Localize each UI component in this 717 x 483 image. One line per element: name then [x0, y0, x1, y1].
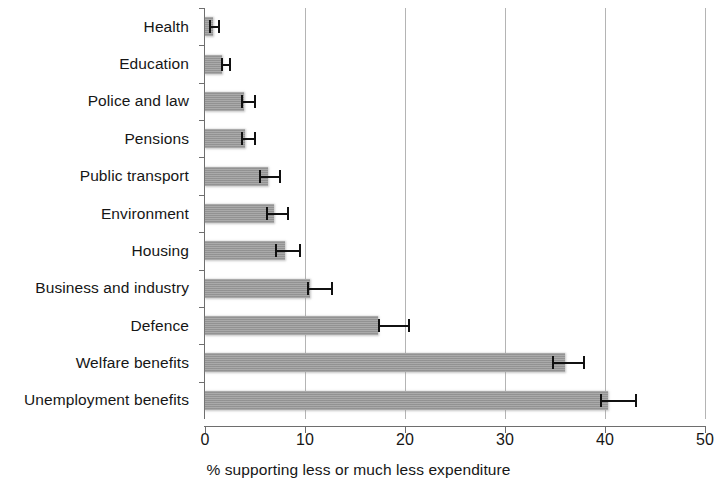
gridline-40	[605, 8, 606, 419]
bar	[205, 279, 310, 298]
category-label: Environment	[101, 206, 189, 222]
category-label: Health	[144, 19, 189, 35]
error-bar-whisker	[600, 400, 637, 402]
x-tick-label-10: 10	[283, 431, 327, 449]
error-bar-cap-high	[218, 20, 220, 33]
category-label: Police and law	[88, 93, 189, 109]
x-axis-title: % supporting less or much less expenditu…	[0, 461, 717, 479]
error-bar-cap-high	[279, 170, 281, 183]
bar	[205, 55, 222, 74]
error-bar	[552, 356, 585, 369]
y-tick-10	[199, 382, 205, 383]
error-bar	[600, 394, 637, 407]
error-bar	[275, 244, 301, 257]
x-tick-label-30: 30	[483, 431, 527, 449]
category-label: Welfare benefits	[76, 355, 189, 371]
error-bar-whisker	[552, 362, 585, 364]
error-bar	[241, 132, 256, 145]
category-label: Unemployment benefits	[24, 392, 189, 408]
error-bar-whisker	[378, 325, 410, 327]
error-bar-cap-high	[287, 207, 289, 220]
y-tick-1	[199, 45, 205, 46]
gridline-50	[705, 8, 706, 419]
error-bar-whisker	[307, 288, 333, 290]
error-bar	[241, 95, 256, 108]
y-tick-8	[199, 307, 205, 308]
bar	[205, 353, 565, 372]
y-tick-9	[199, 344, 205, 345]
category-label: Housing	[131, 243, 189, 259]
y-tick-3	[199, 120, 205, 121]
error-bar	[378, 319, 410, 332]
x-axis-line	[204, 426, 706, 427]
y-tick-4	[199, 157, 205, 158]
category-label: Defence	[131, 318, 189, 334]
bar	[205, 241, 285, 260]
error-bar-whisker	[266, 213, 289, 215]
error-bar-whisker	[275, 250, 301, 252]
category-label: Education	[119, 56, 189, 72]
error-bar-cap-high	[583, 356, 585, 369]
x-tick-label-40: 40	[583, 431, 627, 449]
error-bar-cap-high	[254, 132, 256, 145]
y-tick-0	[199, 8, 205, 9]
y-tick-6	[199, 232, 205, 233]
error-bar-cap-high	[408, 319, 410, 332]
x-tick-label-20: 20	[383, 431, 427, 449]
error-bar-cap-high	[635, 394, 637, 407]
bar	[205, 129, 245, 148]
error-bar	[266, 207, 289, 220]
error-bar-cap-high	[254, 95, 256, 108]
y-tick-2	[199, 83, 205, 84]
plot-area	[205, 8, 705, 419]
category-label-column: HealthEducationPolice and lawPensionsPub…	[0, 0, 197, 420]
category-label: Pensions	[124, 131, 189, 147]
bar-chart: HealthEducationPolice and lawPensionsPub…	[0, 0, 717, 483]
x-tick-label-50: 50	[683, 431, 717, 449]
error-bar	[307, 282, 333, 295]
y-tick-7	[199, 270, 205, 271]
x-tick-label-0: 0	[183, 431, 227, 449]
y-tick-5	[199, 195, 205, 196]
error-bar	[259, 170, 281, 183]
bar	[205, 204, 274, 223]
error-bar-cap-high	[229, 58, 231, 71]
error-bar-cap-high	[299, 244, 301, 257]
error-bar-cap-high	[331, 282, 333, 295]
error-bar	[209, 20, 220, 33]
error-bar-whisker	[259, 176, 281, 178]
bar	[205, 316, 378, 335]
category-label: Business and industry	[35, 280, 189, 296]
error-bar	[221, 58, 231, 71]
category-label: Public transport	[80, 168, 189, 184]
bar	[205, 92, 244, 111]
bar	[205, 391, 608, 410]
